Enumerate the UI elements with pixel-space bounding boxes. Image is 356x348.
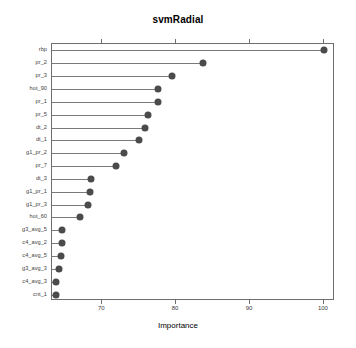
data-point (145, 111, 152, 118)
data-point (55, 265, 62, 272)
data-point (52, 291, 59, 298)
data-point (120, 150, 127, 157)
y-axis-labels: rbppr_2pr_3hot_90pr_1pr_5dt_2dt_1g1_pr_2… (0, 43, 47, 300)
data-point (53, 278, 60, 285)
data-series (52, 44, 333, 299)
y-tick-label: hot_60 (30, 213, 47, 219)
y-tick-label: rbp (39, 46, 47, 52)
x-tick-label: 70 (98, 305, 105, 311)
data-point (113, 163, 120, 170)
data-point (88, 175, 95, 182)
data-point (59, 227, 66, 234)
y-tick-label: c4_avg_2 (22, 239, 47, 245)
lollipop-line (52, 102, 158, 103)
y-tick-label: g3_avg_3 (22, 265, 47, 271)
y-tick-label: pr_5 (36, 111, 47, 117)
y-tick-label: pr_1 (36, 98, 47, 104)
lollipop-line (52, 179, 91, 180)
x-tick-label: 90 (246, 305, 253, 311)
data-point (155, 85, 162, 92)
y-tick-label: g1_pr_2 (26, 149, 47, 155)
x-tick-mark (175, 300, 176, 304)
x-axis-title: Importance (0, 321, 356, 330)
y-tick-label: hot_90 (30, 85, 47, 91)
y-tick-label: pr_3 (36, 72, 47, 78)
x-tick-mark-top (249, 39, 250, 43)
x-tick-mark (101, 300, 102, 304)
y-tick-label: pr_2 (36, 59, 47, 65)
x-tick-mark-top (101, 39, 102, 43)
data-point (57, 253, 64, 260)
chart-title: svmRadial (0, 14, 356, 25)
lollipop-line (52, 63, 203, 64)
data-point (168, 73, 175, 80)
chart-container: svmRadial rbppr_2pr_3hot_90pr_1pr_5dt_2d… (0, 0, 356, 348)
lollipop-line (52, 140, 139, 141)
lollipop-line (52, 50, 324, 51)
plot-panel (51, 43, 334, 300)
lollipop-line (52, 128, 145, 129)
data-point (200, 60, 207, 67)
lollipop-line (52, 115, 148, 116)
x-tick-label: 100 (318, 305, 328, 311)
y-tick-label: c4_avg_3 (22, 278, 47, 284)
lollipop-line (52, 76, 172, 77)
x-tick-label: 80 (172, 305, 179, 311)
lollipop-line (52, 166, 116, 167)
lollipop-line (52, 192, 90, 193)
lollipop-line (52, 205, 88, 206)
y-tick-label: g3_avg_5 (22, 226, 47, 232)
data-point (87, 188, 94, 195)
y-tick-label: g1_pr_1 (26, 188, 47, 194)
x-tick-mark-top (175, 39, 176, 43)
data-point (85, 201, 92, 208)
y-tick-label: dt_3 (36, 175, 47, 181)
y-tick-label: cnt_1 (33, 291, 47, 297)
y-tick-label: dt_1 (36, 136, 47, 142)
lollipop-line (52, 153, 124, 154)
x-tick-mark (249, 300, 250, 304)
y-tick-label: g1_pr_3 (26, 201, 47, 207)
y-tick-label: pr_7 (36, 162, 47, 168)
y-tick-label: dt_2 (36, 124, 47, 130)
y-tick-label: c4_avg_5 (22, 252, 47, 258)
data-point (142, 124, 149, 131)
data-point (320, 47, 327, 54)
data-point (154, 98, 161, 105)
data-point (58, 240, 65, 247)
x-axis: 708090100 (51, 300, 334, 314)
lollipop-line (52, 89, 158, 90)
data-point (136, 137, 143, 144)
x-tick-mark-top (323, 39, 324, 43)
data-point (77, 214, 84, 221)
x-tick-mark (323, 300, 324, 304)
